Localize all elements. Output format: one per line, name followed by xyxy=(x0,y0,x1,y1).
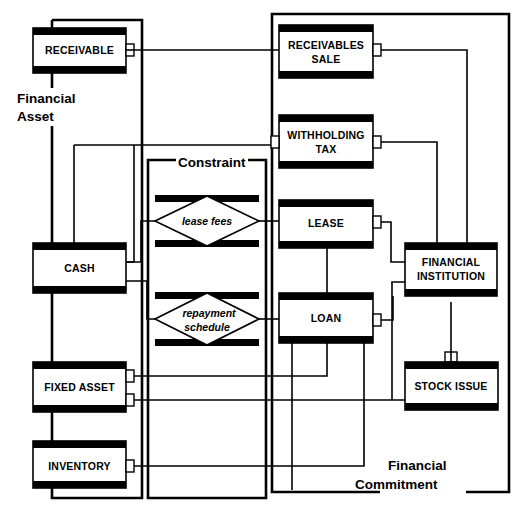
entity-receivables-sale-label-2: SALE xyxy=(312,53,341,65)
constraint-repayment-schedule[interactable]: repayment schedule xyxy=(155,292,259,346)
entity-stock-issue-label: STOCK ISSUE xyxy=(414,380,487,392)
loan-port-right xyxy=(373,314,381,326)
wire-cash-to-lease-fees xyxy=(126,221,155,262)
entity-fixed-asset[interactable]: FIXED ASSET xyxy=(33,362,134,412)
entity-fixed-asset-label: FIXED ASSET xyxy=(44,381,115,393)
lease-port-right xyxy=(373,216,381,228)
entity-stock-issue[interactable]: STOCK ISSUE xyxy=(405,352,498,410)
constraint-nodes: lease fees repayment schedule xyxy=(155,195,259,346)
wire-cash-to-repayment-schedule xyxy=(126,281,155,319)
constraint-lease-fees-label: lease fees xyxy=(182,215,232,227)
entity-withholding-tax[interactable]: WITHHOLDING TAX xyxy=(271,115,381,168)
fixed-asset-port-right-1 xyxy=(126,370,134,382)
financial-asset-label-line1: Financial xyxy=(17,91,76,106)
entity-financial-institution-label-1: FINANCIAL xyxy=(422,256,481,268)
wire-fixed-asset-riser xyxy=(392,282,405,400)
entity-financial-institution-label-2: INSTITUTION xyxy=(417,270,485,282)
constraint-repayment-schedule-label-1: repayment xyxy=(182,307,236,319)
entity-lease-label: LEASE xyxy=(308,217,344,229)
entity-receivables-sale-label-1: RECEIVABLES xyxy=(288,39,364,51)
constraint-lease-fees[interactable]: lease fees xyxy=(155,195,259,247)
wire-withholding-tax-to-financial-institution xyxy=(381,142,437,243)
receivables-sale-port-right xyxy=(373,44,381,56)
wire-lease-to-financial-institution xyxy=(381,222,405,262)
entity-receivables-sale[interactable]: RECEIVABLES SALE xyxy=(279,25,381,78)
entity-loan-label: LOAN xyxy=(311,312,342,324)
financial-commitment-label-line1: Financial xyxy=(388,458,447,473)
constraint-repayment-schedule-label-2: schedule xyxy=(184,321,230,333)
entity-lease[interactable]: LEASE xyxy=(279,200,381,248)
entity-financial-institution[interactable]: FINANCIAL INSTITUTION xyxy=(405,243,497,296)
constraint-label: Constraint xyxy=(178,155,246,170)
entity-cash[interactable]: CASH xyxy=(33,243,126,293)
entity-inventory-label: INVENTORY xyxy=(48,460,110,472)
entity-diagram-canvas: Financial Asset Constraint Financial Com… xyxy=(0,0,524,528)
fixed-asset-port-right-2 xyxy=(126,394,134,406)
financial-commitment-label-line2: Commitment xyxy=(355,477,438,492)
entity-receivable-label: RECEIVABLE xyxy=(45,44,114,56)
inventory-port-right xyxy=(126,460,134,472)
entity-receivable[interactable]: RECEIVABLE xyxy=(33,28,134,73)
financial-asset-label-line2: Asset xyxy=(17,109,54,124)
entity-loan[interactable]: LOAN xyxy=(279,293,381,343)
wire-receivables-sale-to-financial-institution xyxy=(381,50,467,243)
withholding-tax-port-right xyxy=(373,136,381,148)
entity-withholding-tax-label-2: TAX xyxy=(316,143,337,155)
entity-withholding-tax-label-1: WITHHOLDING xyxy=(287,129,364,141)
entity-cash-label: CASH xyxy=(64,262,95,274)
entity-inventory[interactable]: INVENTORY xyxy=(33,441,134,488)
withholding-tax-port-left xyxy=(271,136,279,148)
wire-inventory-to-loan xyxy=(134,343,364,466)
